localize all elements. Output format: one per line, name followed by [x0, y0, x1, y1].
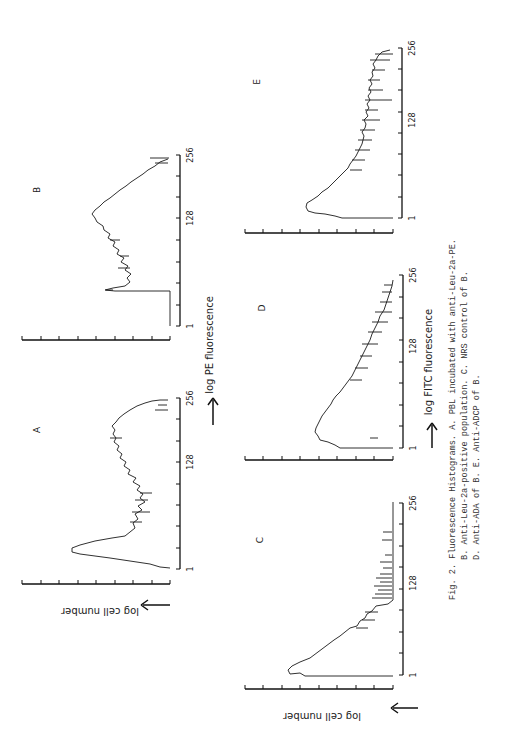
x-axis-label-top: log PE fluorescence [204, 296, 215, 394]
tick-label-b-256: 256 [186, 147, 195, 162]
histogram-c [288, 502, 393, 676]
tick-label-e-1: 1 [408, 215, 417, 220]
panel-a: A 1 128 256 [22, 390, 195, 584]
panel-e: E 1 128 256 [245, 40, 417, 233]
panel-label-c: C [255, 537, 265, 543]
tick-label-d-256: 256 [409, 267, 418, 282]
panel-c: C 1 128 256 [245, 495, 418, 689]
tick-label-d-1: 1 [409, 445, 418, 450]
tick-label-b-1: 1 [186, 323, 195, 328]
tick-label-e-128: 128 [408, 112, 417, 127]
tick-label-c-128: 128 [409, 575, 418, 590]
histogram-a [72, 400, 170, 568]
y-axis-label-bottom: log cell number [282, 711, 361, 722]
caption-line-3: D. Anti-ADA of B. E. Anti-ADCP of B. [472, 374, 482, 560]
arrow-right-icon-top [208, 398, 218, 425]
tick-label-b-128: 128 [186, 210, 195, 225]
histogram-e [306, 50, 393, 218]
tick-label-c-256: 256 [409, 495, 418, 510]
tick-label-e-256: 256 [408, 40, 417, 55]
caption-line-1: Fig. 2. Fluorescence Histograms. A. PBL … [448, 239, 458, 600]
figure-caption: Fig. 2. Fluorescence Histograms. A. PBL … [448, 239, 482, 600]
panel-label-a: A [32, 426, 42, 433]
tick-label-a-256: 256 [186, 390, 195, 405]
histogram-d [315, 280, 393, 448]
arrow-up-icon-top [141, 600, 170, 610]
figure-canvas: A 1 128 256 B 1 128 256 [0, 0, 507, 744]
arrow-up-icon-bottom [391, 703, 418, 713]
caption-line-2: B. Anti-Leu-2a-positive population. C. N… [460, 271, 470, 560]
tick-label-a-1: 1 [186, 566, 195, 571]
panel-d: D 1 128 256 [245, 267, 418, 460]
x-axis-label-bottom: log FITC fluorescence [423, 309, 434, 415]
y-axis-label-top: log cell number [60, 606, 139, 617]
histogram-b [92, 159, 170, 326]
tick-label-c-1: 1 [409, 672, 418, 677]
panel-label-e: E [252, 79, 262, 85]
tick-label-d-128: 128 [409, 338, 418, 353]
panel-b: B 1 128 256 [22, 147, 195, 340]
panel-label-b: B [32, 187, 42, 193]
tick-label-a-128: 128 [186, 454, 195, 469]
arrow-right-icon-bottom [427, 423, 437, 448]
panel-label-d: D [257, 304, 267, 311]
